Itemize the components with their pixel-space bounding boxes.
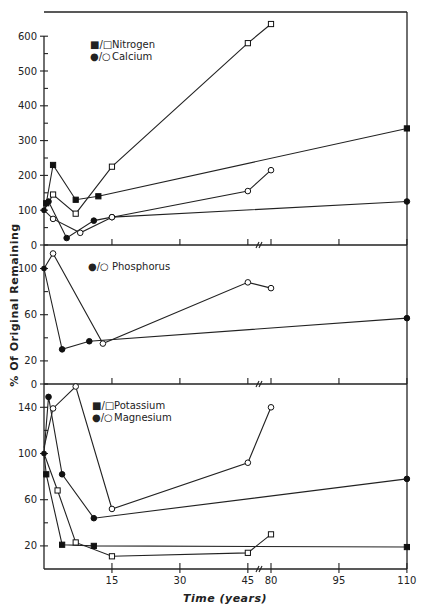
open-square-marker [245, 550, 250, 555]
open-circle-marker [50, 216, 56, 222]
y-tick-label: 500 [18, 66, 37, 77]
filled-square-marker [404, 544, 409, 549]
y-tick-label: 20 [24, 540, 37, 551]
filled-circle-marker [46, 394, 52, 400]
filled-circle-marker [404, 315, 410, 321]
open-square-marker [109, 164, 114, 169]
legend-middle: ●/○ Phosphorus [88, 261, 170, 272]
origin-marker [41, 266, 47, 272]
data-markers [41, 21, 410, 558]
legend-calcium-label: Calcium [112, 51, 152, 62]
filled-circle-marker [64, 235, 70, 241]
x-tick-label: 110 [397, 575, 416, 586]
open-square-marker [245, 41, 250, 46]
open-square-marker [55, 488, 60, 493]
x-tick-label: 95 [333, 575, 346, 586]
x-tick-label: 80 [265, 575, 278, 586]
x-tick-label: 15 [106, 575, 119, 586]
legend-magnesium-symbol: ●/○ [92, 412, 113, 423]
legend-calcium-symbol: ●/○ [90, 51, 111, 62]
filled-circle-marker [91, 218, 97, 224]
x-axis-title: Time (years) [183, 592, 267, 605]
legend-phosphorus-label: Phosphorus [112, 261, 170, 272]
y-tick-label: 0 [31, 379, 37, 390]
y-tick-label: 100 [18, 205, 37, 216]
filled-square-marker [96, 194, 101, 199]
legend-magnesium-label: Magnesium [114, 412, 172, 423]
y-tick-label: 60 [24, 309, 37, 320]
y-tick-label: 400 [18, 100, 37, 111]
open-square-marker [50, 192, 55, 197]
filled-circle-marker [46, 199, 52, 205]
legend-bottom: ■/□ Potassium ●/○ Magnesium [92, 400, 172, 423]
open-circle-marker [268, 405, 274, 411]
open-square-marker [268, 532, 273, 537]
y-tick-label: 100 [18, 448, 37, 459]
open-circle-marker [109, 214, 115, 220]
filled-circle-marker [91, 515, 97, 521]
open-circle-marker [268, 167, 274, 173]
legend-potassium-symbol: ■/□ [92, 400, 114, 411]
filled-square-marker [50, 162, 55, 167]
filled-circle-marker [59, 347, 65, 353]
data-series [44, 24, 407, 556]
open-circle-marker [245, 188, 251, 194]
filled-square-marker [60, 542, 65, 547]
filled-circle-marker [404, 199, 410, 205]
filled-circle-marker [87, 338, 93, 344]
x-tick-label: 45 [241, 575, 254, 586]
open-square-marker [268, 21, 273, 26]
axis-ticks [40, 36, 407, 573]
open-circle-marker [50, 406, 56, 412]
y-tick-label: 20 [24, 355, 37, 366]
open-square-marker [73, 540, 78, 545]
filled-square-marker [73, 197, 78, 202]
nutrient-remaining-chart: 0100200300400500600020601002060100140153… [0, 0, 423, 609]
open-circle-marker [245, 280, 251, 286]
y-tick-label: 140 [18, 402, 37, 413]
y-tick-label: 60 [24, 494, 37, 505]
open-circle-marker [109, 506, 115, 512]
legend-nitrogen-label: Nitrogen [112, 39, 155, 50]
series-line [44, 202, 407, 239]
legend-phosphorus-symbol: ●/○ [88, 261, 109, 272]
filled-circle-marker [59, 471, 65, 477]
y-tick-label: 0 [31, 240, 37, 251]
open-square-marker [73, 211, 78, 216]
open-circle-marker [268, 285, 274, 291]
filled-square-marker [404, 126, 409, 131]
open-square-marker [109, 554, 114, 559]
filled-square-marker [44, 472, 49, 477]
legend-nitrogen-symbol: ■/□ [90, 39, 112, 50]
y-tick-label: 600 [18, 31, 37, 42]
x-tick-label: 30 [174, 575, 187, 586]
series-line [44, 269, 407, 350]
series-line [44, 24, 271, 214]
open-circle-marker [50, 251, 56, 257]
y-tick-label: 300 [18, 135, 37, 146]
origin-marker [41, 207, 47, 213]
filled-square-marker [91, 543, 96, 548]
y-tick-label: 200 [18, 170, 37, 181]
open-circle-marker [73, 384, 79, 390]
legend-top: ■/□ Nitrogen ●/○ Calcium [90, 39, 155, 62]
series-line [44, 454, 407, 548]
filled-circle-marker [404, 476, 410, 482]
y-axis-title: % Of Original Remaining [8, 223, 21, 386]
legend-potassium-label: Potassium [114, 400, 165, 411]
open-circle-marker [245, 460, 251, 466]
origin-marker [41, 451, 47, 457]
open-circle-marker [100, 341, 106, 347]
open-circle-marker [77, 230, 83, 236]
